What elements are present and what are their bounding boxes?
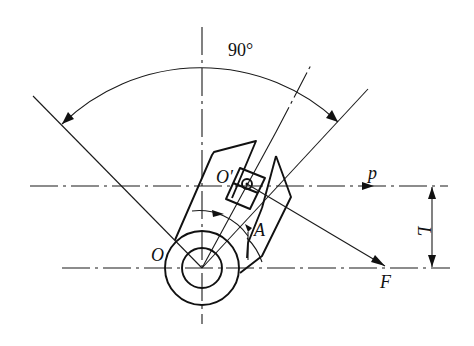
label-a: A	[253, 220, 266, 240]
arc-arrow-left	[62, 112, 74, 124]
label-p: p	[366, 163, 377, 183]
dimension-l-arrow-top	[428, 187, 436, 199]
force-f-line	[247, 184, 385, 266]
force-p-arrow	[362, 182, 374, 190]
rotation-arrow	[212, 210, 224, 217]
label-l: L	[414, 225, 434, 236]
a-arrow	[245, 224, 252, 232]
technical-diagram: 90° O O′ A p F L	[0, 0, 474, 346]
angle-arc	[62, 68, 338, 124]
dimension-l-arrow-bottom	[428, 255, 436, 267]
arc-arrow-right	[326, 110, 338, 122]
angle-label: 90°	[228, 40, 253, 60]
label-o: O	[151, 245, 164, 265]
label-f: F	[379, 272, 392, 292]
force-f-arrow	[371, 255, 385, 266]
label-o-prime: O′	[216, 167, 234, 187]
